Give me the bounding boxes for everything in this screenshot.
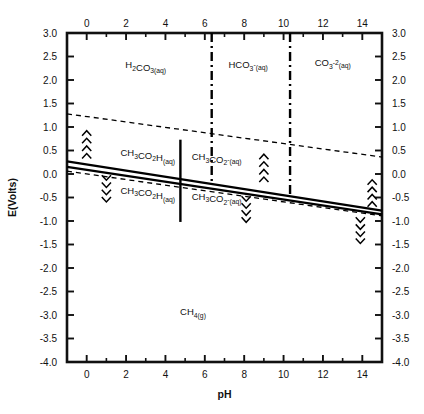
x-tick-label-bottom: 6	[202, 369, 208, 380]
y-tick-label-right: 1.5	[392, 98, 406, 109]
y-tick-label-right: 0.0	[392, 169, 406, 180]
y-tick-label-right: 2.0	[392, 75, 406, 86]
y-tick-label-left: -2.0	[40, 263, 58, 274]
y-tick-label-left: 2.0	[43, 75, 57, 86]
y-tick-label-right: 2.5	[392, 51, 406, 62]
x-axis-title: pH	[218, 388, 232, 400]
x-tick-label-bottom: 8	[241, 369, 247, 380]
y-tick-label-right: 1.0	[392, 122, 406, 133]
y-tick-label-right: -0.5	[392, 192, 410, 203]
x-tick-label-top: 4	[163, 18, 169, 29]
y-tick-label-left: 1.5	[43, 98, 57, 109]
x-tick-label-top: 10	[278, 18, 290, 29]
y-axis-title: E(Volts)	[6, 178, 18, 217]
x-tick-label-top: 12	[317, 18, 329, 29]
x-tick-label-bottom: 10	[278, 369, 290, 380]
x-tick-label-bottom: 0	[84, 369, 90, 380]
x-tick-label-top: 0	[84, 18, 90, 29]
y-tick-label-left: 0.5	[43, 145, 57, 156]
chart-canvas: 00224466881010121214143.03.02.52.52.02.0…	[0, 0, 424, 414]
y-tick-label-right: -1.5	[392, 239, 410, 250]
y-tick-label-left: -3.0	[40, 310, 58, 321]
y-tick-label-left: 1.0	[43, 122, 57, 133]
pourbaix-diagram: 00224466881010121214143.03.02.52.52.02.0…	[0, 0, 424, 414]
y-tick-label-right: -1.0	[392, 216, 410, 227]
y-tick-label-right: -2.5	[392, 286, 410, 297]
y-tick-label-left: 2.5	[43, 51, 57, 62]
x-tick-label-bottom: 4	[163, 369, 169, 380]
y-tick-label-left: -4.0	[40, 357, 58, 368]
x-tick-label-bottom: 14	[357, 369, 369, 380]
y-tick-label-left: -0.5	[40, 192, 58, 203]
y-tick-label-right: 0.5	[392, 145, 406, 156]
y-tick-label-right: -3.0	[392, 310, 410, 321]
y-tick-label-right: -3.5	[392, 333, 410, 344]
x-tick-label-bottom: 12	[317, 369, 329, 380]
y-tick-label-left: 0.0	[43, 169, 57, 180]
y-tick-label-left: 3.0	[43, 28, 57, 39]
y-tick-label-right: 3.0	[392, 28, 406, 39]
x-tick-label-top: 6	[202, 18, 208, 29]
y-tick-label-left: -3.5	[40, 333, 58, 344]
y-tick-label-left: -1.0	[40, 216, 58, 227]
y-tick-label-right: -4.0	[392, 357, 410, 368]
y-tick-label-left: -2.5	[40, 286, 58, 297]
x-tick-label-top: 14	[357, 18, 369, 29]
x-tick-label-top: 2	[123, 18, 129, 29]
y-tick-label-left: -1.5	[40, 239, 58, 250]
x-tick-label-bottom: 2	[123, 369, 129, 380]
y-tick-label-right: -2.0	[392, 263, 410, 274]
plot-frame	[67, 33, 382, 362]
x-tick-label-top: 8	[241, 18, 247, 29]
